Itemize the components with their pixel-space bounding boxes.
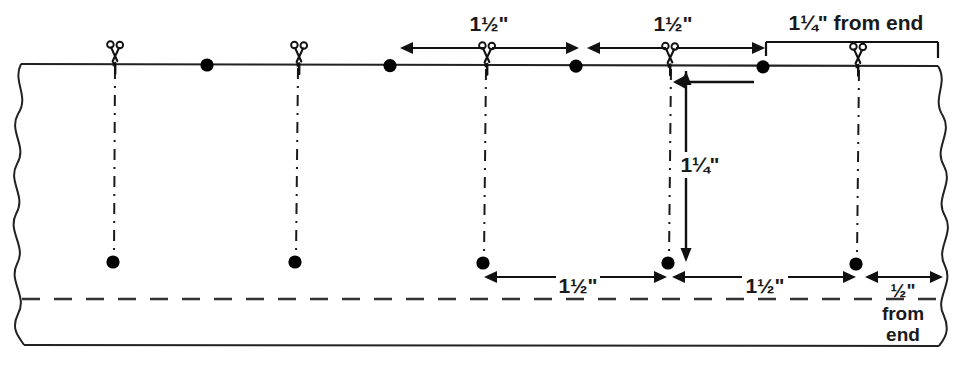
bottom-dot-3	[476, 256, 489, 269]
guide-line-1	[114, 68, 115, 258]
guide-line-5	[857, 70, 859, 258]
scissors-icon[interactable]	[291, 42, 307, 74]
dimension-vertical-center: 1¼"	[680, 71, 754, 262]
scissors-icon[interactable]	[850, 43, 866, 75]
dimension-label-bottom-end-line2: from	[882, 303, 924, 324]
diagram-canvas: 1½" 1½" 1¼" from end 1¼"	[0, 0, 960, 370]
dimension-top-end: 1¼" from end	[766, 11, 938, 58]
fabric-left-break-edge	[14, 64, 24, 345]
cut-marks-group	[107, 41, 866, 75]
dimension-label-bottom-1: 1½"	[558, 274, 597, 297]
dimension-label-top-1: 1½"	[469, 12, 508, 35]
dimension-label-top-2: 1½"	[653, 12, 692, 35]
bottom-dot-1	[106, 255, 119, 268]
bottom-dot-5	[849, 257, 862, 270]
top-dot-4	[756, 60, 769, 73]
dimension-bottom-span-2: 1½"	[685, 274, 843, 297]
scissors-icon[interactable]	[107, 41, 123, 73]
top-dot-3	[569, 60, 582, 73]
bottom-dot-4	[661, 256, 674, 269]
sewing-layout-diagram: 1½" 1½" 1¼" from end 1¼"	[0, 0, 960, 370]
guide-lines-group	[114, 68, 859, 258]
dimension-label-bottom-end-value: ½"	[891, 280, 916, 301]
bottom-dots-group	[106, 255, 862, 270]
dimension-label-bottom-end-line3: end	[886, 324, 920, 345]
top-dot-2	[383, 59, 396, 72]
dimension-label-vertical: 1¼"	[680, 153, 719, 176]
guide-line-4	[669, 69, 671, 258]
bottom-dot-2	[288, 255, 301, 268]
dimension-bottom-span-1: 1½"	[497, 274, 654, 297]
fabric-bottom-edge	[24, 345, 939, 346]
dimension-label-bottom-2: 1½"	[745, 274, 784, 297]
dimension-bottom-end: ½" from end	[878, 277, 930, 345]
fabric-right-break-edge	[938, 66, 948, 346]
guide-line-2	[296, 68, 298, 258]
top-dot-1	[200, 58, 213, 71]
dimension-label-top-end: 1¼" from end	[789, 11, 924, 34]
fabric-top-edge	[21, 64, 938, 66]
guide-line-3	[484, 69, 486, 258]
